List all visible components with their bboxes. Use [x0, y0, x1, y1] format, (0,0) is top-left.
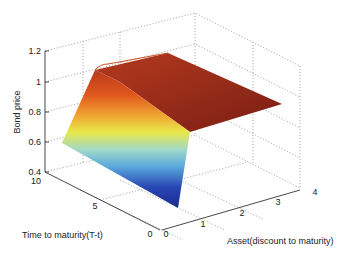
surface-plot: 1.2 1 0.8 0.6 0.4 10 5 0 0 1 2 3 4 Bond …: [0, 0, 340, 259]
z-tick-0.6: 0.6: [28, 137, 41, 147]
y-axis-label: Time to maturity(T-t): [22, 230, 103, 240]
x-tick-2: 2: [239, 208, 244, 218]
y-tick-5: 5: [92, 201, 97, 211]
x-tick-1: 1: [200, 219, 205, 229]
z-axis-label: Bond price: [12, 90, 22, 133]
x-tick-3: 3: [275, 197, 280, 207]
x-axis-label: Asset(discount to maturity): [227, 236, 334, 246]
z-tick-1.2: 1.2: [28, 46, 41, 56]
z-tick-1: 1: [36, 77, 41, 87]
y-tick-10: 10: [31, 176, 41, 186]
z-tick-0.8: 0.8: [28, 107, 41, 117]
x-tick-0: 0: [163, 229, 168, 239]
x-tick-4: 4: [312, 187, 317, 197]
y-tick-0: 0: [147, 229, 152, 239]
